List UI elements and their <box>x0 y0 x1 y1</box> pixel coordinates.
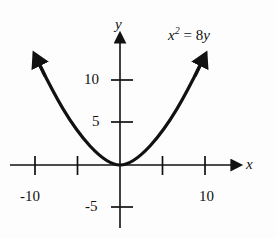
parabola-figure: y x 10 5 -5 -10 10 x2 = 8y <box>0 0 276 238</box>
parabola-right-arrow <box>195 63 202 77</box>
y-tick-label-neg5: -5 <box>85 199 98 214</box>
parabola-left-arrow <box>39 63 46 77</box>
equation-exponent: 2 <box>175 25 180 36</box>
x-tick-label-neg10: -10 <box>20 189 40 204</box>
equation-variable: y <box>203 27 210 43</box>
y-axis-label: y <box>115 17 122 32</box>
x-axis-label: x <box>246 157 253 172</box>
plot-canvas <box>0 0 276 238</box>
equation-operator: = <box>183 27 191 43</box>
equation-annotation: x2 = 8y <box>168 26 210 43</box>
equation-base: x <box>168 27 175 43</box>
y-tick-label-10: 10 <box>84 72 99 87</box>
y-tick-label-5: 5 <box>92 114 100 129</box>
x-tick-label-pos10: 10 <box>199 189 214 204</box>
